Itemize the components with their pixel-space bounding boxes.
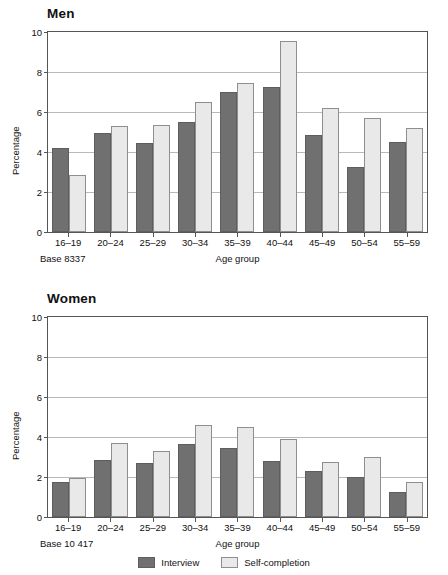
bar-group (259, 32, 301, 232)
chart-panel-men: Men Percentage 0246810 16–1920–2425–2930… (0, 0, 448, 285)
bar-self-completion (195, 425, 212, 517)
y-axis-tick-label: 0 (8, 228, 42, 238)
y-axis-tick-label: 2 (8, 188, 42, 198)
x-axis-tick-label: 20–24 (89, 522, 131, 533)
bar-self-completion (406, 482, 423, 517)
bar-interview (263, 87, 280, 232)
x-axis-tick-label: 55–59 (386, 237, 428, 248)
bar-interview (136, 463, 153, 517)
legend-swatch-interview (138, 557, 155, 568)
bar-groups-women (48, 317, 427, 517)
x-axis-tick-label: 50–54 (343, 237, 385, 248)
bar-group (343, 317, 385, 517)
bar-group (301, 32, 343, 232)
bar-interview (305, 135, 322, 232)
bar-interview (389, 492, 406, 517)
y-axis-tick-label: 10 (8, 313, 42, 323)
bar-interview (305, 471, 322, 517)
bar-group (343, 32, 385, 232)
x-axis-tick-label: 40–44 (259, 522, 301, 533)
bar-interview (347, 477, 364, 517)
x-axis-labels-men: 16–1920–2425–2930–3435–3940–4445–4950–54… (47, 237, 428, 248)
x-axis-tick-label: 16–19 (47, 237, 89, 248)
x-axis-tick-label: 35–39 (216, 237, 258, 248)
x-axis-labels-women: 16–1920–2425–2930–3435–3940–4445–4950–54… (47, 522, 428, 533)
bar-group (48, 32, 90, 232)
bar-self-completion (153, 451, 170, 517)
y-axis-tick-label: 0 (8, 513, 42, 523)
bar-group (385, 32, 427, 232)
bar-group (174, 32, 216, 232)
bar-group (216, 317, 258, 517)
bar-interview (263, 461, 280, 517)
x-axis-tick-label: 35–39 (216, 522, 258, 533)
x-axis-tick-label: 45–49 (301, 237, 343, 248)
chart-legend: Interview Self-completion (0, 557, 448, 568)
bar-interview (178, 122, 195, 232)
legend-swatch-self-completion (221, 557, 238, 568)
y-axis-tick-label: 6 (8, 393, 42, 403)
bar-interview (94, 133, 111, 232)
legend-item-self-completion: Self-completion (221, 557, 309, 568)
bar-interview (52, 148, 69, 232)
x-axis-tick-label: 20–24 (89, 237, 131, 248)
y-axis-tick-label: 6 (8, 108, 42, 118)
x-axis-tick-label: 25–29 (132, 522, 174, 533)
bar-self-completion (111, 126, 128, 232)
bar-self-completion (364, 457, 381, 517)
bar-groups-men (48, 32, 427, 232)
bar-self-completion (195, 102, 212, 232)
bar-group (174, 317, 216, 517)
bar-group (259, 317, 301, 517)
page-title-women: Women (47, 291, 97, 306)
x-axis-tick-label: 16–19 (47, 522, 89, 533)
bar-interview (220, 448, 237, 517)
bar-group (90, 317, 132, 517)
y-axis-tick-label: 4 (8, 433, 42, 443)
bar-self-completion (280, 41, 297, 232)
y-axis-tick-label: 8 (8, 353, 42, 363)
x-axis-tick-label: 30–34 (174, 522, 216, 533)
x-axis-title-women: Age group (47, 538, 428, 549)
bar-interview (136, 143, 153, 232)
x-axis-tick-label: 30–34 (174, 237, 216, 248)
x-axis-tick-label: 45–49 (301, 522, 343, 533)
bar-self-completion (364, 118, 381, 232)
x-axis-tick-label: 25–29 (132, 237, 174, 248)
bar-group (48, 317, 90, 517)
x-axis-tick-label: 50–54 (343, 522, 385, 533)
bar-group (132, 317, 174, 517)
bar-interview (52, 482, 69, 517)
legend-label-self-completion: Self-completion (244, 557, 309, 568)
y-axis-tick-label: 10 (8, 28, 42, 38)
bar-interview (220, 92, 237, 232)
x-axis-tick-label: 55–59 (386, 522, 428, 533)
bar-self-completion (69, 478, 86, 517)
y-axis-tick-label: 4 (8, 148, 42, 158)
chart-page: Men Percentage 0246810 16–1920–2425–2930… (0, 0, 448, 575)
bar-interview (94, 460, 111, 517)
bar-self-completion (280, 439, 297, 517)
y-axis-tick-label: 2 (8, 473, 42, 483)
x-axis-tick-label: 40–44 (259, 237, 301, 248)
y-axis-tick-label: 8 (8, 68, 42, 78)
plot-area-men: 0246810 (47, 31, 428, 233)
bar-self-completion (153, 125, 170, 232)
bar-group (132, 32, 174, 232)
legend-label-interview: Interview (161, 557, 199, 568)
bar-interview (347, 167, 364, 232)
bar-self-completion (322, 462, 339, 517)
bar-self-completion (322, 108, 339, 232)
bar-self-completion (237, 427, 254, 517)
bar-self-completion (69, 175, 86, 232)
bar-self-completion (111, 443, 128, 517)
bar-self-completion (237, 83, 254, 232)
legend-item-interview: Interview (138, 557, 199, 568)
page-title-men: Men (47, 6, 75, 21)
bar-group (216, 32, 258, 232)
bar-group (385, 317, 427, 517)
plot-area-women: 0246810 (47, 316, 428, 518)
bar-group (90, 32, 132, 232)
bar-group (301, 317, 343, 517)
bar-self-completion (406, 128, 423, 232)
